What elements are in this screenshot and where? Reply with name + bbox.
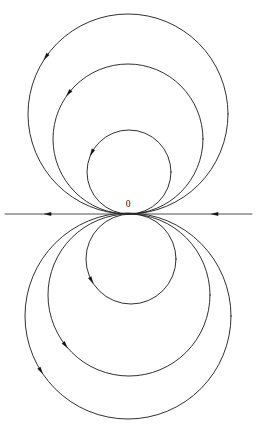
upper-circle-small-arrowhead	[90, 149, 95, 156]
axis-arrowhead-2	[211, 212, 218, 215]
lower-circle-large-arrowhead	[38, 367, 43, 374]
axis-arrowhead-1	[44, 212, 51, 215]
upper-circle-large	[28, 14, 228, 214]
lower-circle-small-arrowhead	[88, 277, 93, 284]
flow-arrowheads-group	[38, 53, 219, 374]
figure-root: 0	[0, 0, 256, 424]
upper-circle-medium	[53, 64, 203, 214]
lower-circle-large	[25, 213, 231, 419]
origin-label: 0	[126, 199, 131, 209]
lower-circle-small	[86, 214, 176, 304]
flow-curves-group	[25, 14, 231, 419]
lower-circle-medium	[48, 214, 210, 376]
phase-portrait-diagram: 0	[0, 0, 256, 424]
